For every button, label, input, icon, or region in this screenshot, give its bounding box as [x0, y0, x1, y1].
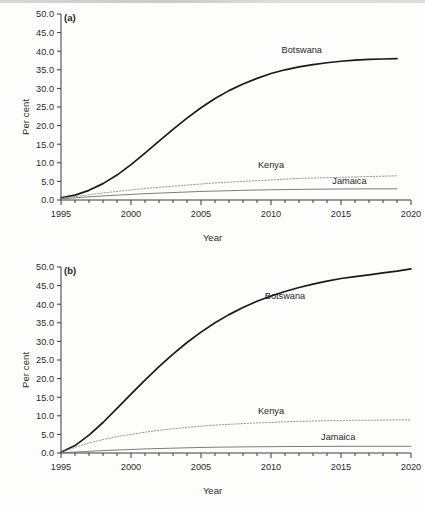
- y-tick-label: 30.0: [36, 84, 54, 94]
- x-tick-label: 2020: [401, 462, 421, 472]
- series-label-jamaica: Jamaica: [332, 176, 367, 186]
- series-label-botswana: Botswana: [282, 45, 323, 55]
- x-tick-label: 2010: [261, 462, 281, 472]
- x-axis-label-a: Year: [0, 232, 425, 243]
- y-tick-label: 50.0: [36, 262, 54, 272]
- y-tick-label: 35.0: [36, 318, 54, 328]
- y-axis-label-a: Per cent: [20, 99, 31, 135]
- series-label-kenya: Kenya: [258, 406, 285, 416]
- chart-panel-a: (a) Per cent Year 0.05.010.015.020.025.0…: [0, 0, 425, 253]
- chart-plot-a: 0.05.010.015.020.025.030.035.040.045.050…: [0, 0, 425, 253]
- x-tick-label: 2005: [191, 462, 211, 472]
- y-tick-label: 45.0: [36, 281, 54, 291]
- x-tick-label: 2000: [121, 209, 141, 219]
- y-tick-label: 40.0: [36, 300, 54, 310]
- series-label-jamaica: Jamaica: [321, 432, 356, 442]
- y-tick-label: 50.0: [36, 9, 54, 19]
- y-tick-label: 20.0: [36, 374, 54, 384]
- series-label-kenya: Kenya: [258, 160, 285, 170]
- y-tick-label: 35.0: [36, 65, 54, 75]
- y-tick-label: 25.0: [36, 355, 54, 365]
- y-axis-label-b: Per cent: [20, 352, 31, 388]
- y-tick-label: 15.0: [36, 393, 54, 403]
- x-tick-label: 1995: [51, 209, 71, 219]
- x-tick-label: 2000: [121, 462, 141, 472]
- x-tick-label: 2015: [331, 462, 351, 472]
- chart-panel-b: (b) Per cent Year 0.05.010.015.020.025.0…: [0, 253, 425, 506]
- panel-label-a: (a): [64, 12, 76, 23]
- panel-label-b: (b): [64, 265, 76, 276]
- y-tick-label: 25.0: [36, 102, 54, 112]
- series-line-botswana: [61, 269, 411, 452]
- y-tick-label: 15.0: [36, 140, 54, 150]
- y-tick-label: 20.0: [36, 121, 54, 131]
- y-tick-label: 30.0: [36, 337, 54, 347]
- series-line-jamaica: [61, 446, 411, 452]
- x-tick-label: 1995: [51, 462, 71, 472]
- y-tick-label: 5.0: [41, 430, 54, 440]
- y-tick-label: 40.0: [36, 47, 54, 57]
- y-tick-label: 0.0: [41, 448, 54, 458]
- y-tick-label: 5.0: [41, 177, 54, 187]
- chart-plot-b: 0.05.010.015.020.025.030.035.040.045.050…: [0, 253, 425, 506]
- x-tick-label: 2015: [331, 209, 351, 219]
- series-line-jamaica: [61, 189, 397, 199]
- y-tick-label: 10.0: [36, 411, 54, 421]
- x-axis-label-b: Year: [0, 485, 425, 496]
- x-tick-label: 2010: [261, 209, 281, 219]
- y-tick-label: 10.0: [36, 158, 54, 168]
- x-tick-label: 2020: [401, 209, 421, 219]
- y-tick-label: 45.0: [36, 28, 54, 38]
- x-tick-label: 2005: [191, 209, 211, 219]
- series-label-botswana: Botswana: [265, 291, 306, 301]
- y-tick-label: 0.0: [41, 195, 54, 205]
